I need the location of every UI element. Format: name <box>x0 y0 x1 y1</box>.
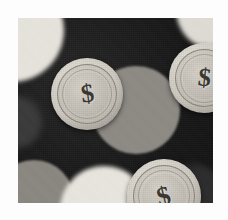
coin-photograph: $$$ <box>18 18 213 203</box>
dollar-sign-icon: $ <box>79 80 95 108</box>
dollar-sign-icon: $ <box>196 64 212 91</box>
coin-face: $ <box>65 72 108 115</box>
coin-top-left: $ <box>51 58 123 130</box>
dollar-sign-icon: $ <box>154 181 174 203</box>
photo-frame: $$$ <box>0 0 228 220</box>
